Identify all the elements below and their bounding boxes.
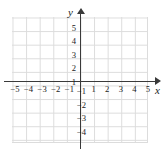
y-tick-label-3: 3 [64,51,76,60]
y-tick-label-5: 5 [64,24,76,33]
y-axis-arrow-icon [77,8,85,14]
x-tick-label-neg3: −3 [36,85,48,94]
x-tick-label-5: 5 [144,85,153,94]
y-axis-label: y [68,7,73,18]
x-tick-label-neg4: −4 [23,85,35,94]
y-tick-label-4: 4 [64,37,76,46]
y-tick-label-neg3: −3 [77,114,91,123]
x-tick-label-2: 2 [103,85,112,94]
y-tick-label-neg2: −2 [77,101,91,110]
y-tick-label-1: 1 [64,78,76,87]
x-tick-label-3: 3 [116,85,125,94]
x-tick-label-4: 4 [130,85,139,94]
x-tick-label-neg2: −2 [50,85,62,94]
y-tick-label-neg1: −1 [77,87,91,96]
y-tick-label-neg4: −4 [77,128,91,137]
coordinate-plane-figure: y x −5 −4 −3 −2 −1 1 2 3 4 5 5 4 3 2 1 −… [0,0,168,154]
x-axis-label: x [155,85,160,96]
x-tick-label-neg5: −5 [9,85,21,94]
y-tick-label-2: 2 [64,64,76,73]
